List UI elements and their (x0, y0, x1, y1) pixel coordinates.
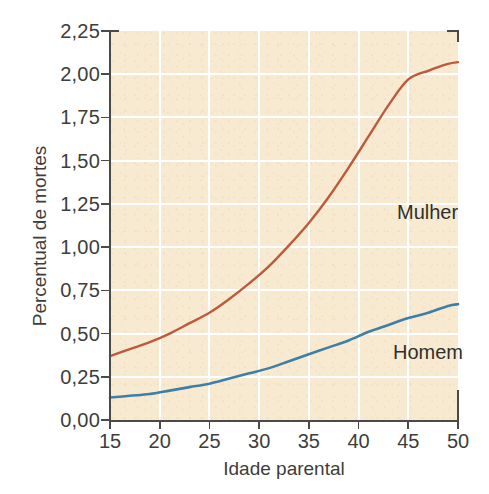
y-axis-title: Percentual de mortes (29, 126, 51, 346)
chart-figure: Mulher Homem 0,000,250,500,751,001,251,5… (0, 0, 489, 494)
x-tick-labels: 1520253035404550 (0, 0, 489, 494)
x-tick-label: 50 (428, 430, 488, 453)
x-axis-title: Idade parental (110, 458, 458, 480)
